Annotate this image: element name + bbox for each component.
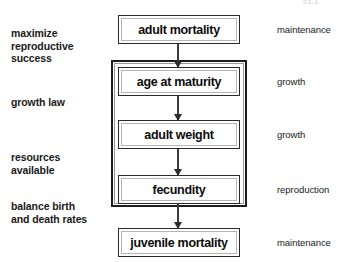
right-label-adult-mortality: maintenance (277, 24, 331, 35)
left-label-balance-birth-and-death-rates: balance birth and death rates (11, 200, 87, 225)
node-adult-mortality: adult mortality (118, 15, 240, 44)
left-label-maximize-reproductive-success: maximize reproductive success (11, 27, 73, 65)
flowchart-diagram: 51.1 maximize reproductive success growt… (0, 0, 356, 262)
node-label-fecundity: fecundity (153, 183, 206, 197)
right-label-juvenile-mortality: maintenance (277, 237, 331, 248)
scan-artifact-text: 51.1 (303, 0, 319, 5)
right-label-adult-weight: growth (277, 129, 305, 140)
right-label-age-at-maturity: growth (277, 76, 305, 87)
left-label-growth-law: growth law (11, 96, 65, 109)
arrow-fecundity-to-juvenile-mortality (177, 203, 179, 228)
node-juvenile-mortality: juvenile mortality (118, 228, 240, 257)
node-fecundity: fecundity (118, 175, 240, 204)
left-label-resources-available: resources available (11, 151, 60, 176)
node-label-adult-mortality: adult mortality (138, 23, 220, 37)
right-label-fecundity: reproduction (277, 184, 329, 195)
node-label-age-at-maturity: age at maturity (137, 75, 221, 89)
arrow-adult-weight-to-fecundity (177, 149, 179, 175)
node-label-juvenile-mortality: juvenile mortality (130, 236, 227, 250)
arrow-adult-mortality-to-age-at-maturity (177, 44, 179, 67)
arrow-age-at-maturity-to-adult-weight (177, 96, 179, 120)
node-age-at-maturity: age at maturity (118, 67, 240, 96)
node-adult-weight: adult weight (118, 120, 240, 149)
node-label-adult-weight: adult weight (144, 128, 213, 142)
